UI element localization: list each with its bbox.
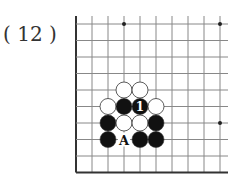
- white-stone: [148, 99, 164, 115]
- move-number-label: 1: [136, 100, 144, 114]
- stones: 1: [100, 82, 164, 148]
- black-stone: [148, 132, 164, 148]
- point-marker-label: A: [118, 133, 130, 148]
- white-stone: [116, 115, 132, 131]
- black-stone: [116, 99, 132, 115]
- white-stone: [116, 82, 132, 98]
- black-stone: [100, 115, 116, 131]
- white-stone: [132, 115, 148, 131]
- star-point: [218, 22, 222, 26]
- white-stone: [100, 99, 116, 115]
- grid-lines: [76, 16, 228, 173]
- star-point: [218, 121, 222, 125]
- white-stone: [132, 82, 148, 98]
- markers: A: [118, 133, 130, 148]
- black-stone: [132, 132, 148, 148]
- star-point: [122, 22, 126, 26]
- go-board-diagram: 1 A: [0, 0, 244, 184]
- black-stone: [100, 132, 116, 148]
- black-stone: [148, 115, 164, 131]
